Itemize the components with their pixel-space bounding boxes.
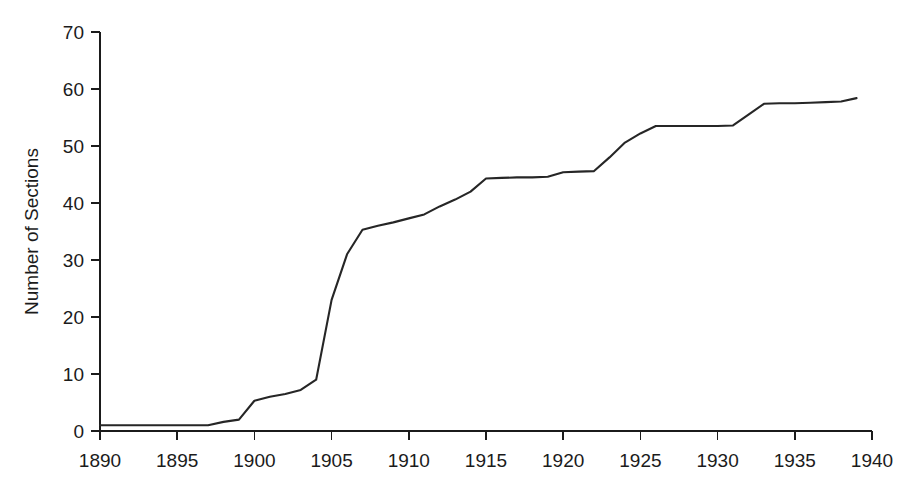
x-tick-label: 1895 — [156, 450, 198, 471]
x-tick-label: 1940 — [851, 450, 893, 471]
x-tick-label: 1925 — [619, 450, 661, 471]
y-tick-label: 30 — [63, 250, 84, 271]
x-tick-label: 1930 — [696, 450, 738, 471]
y-tick-label: 60 — [63, 79, 84, 100]
y-tick-label: 70 — [63, 22, 84, 43]
x-tick-label: 1910 — [388, 450, 430, 471]
y-tick-label: 40 — [63, 193, 84, 214]
line-chart-canvas: 010203040506070 Number of Sections 18901… — [0, 0, 921, 496]
x-tick-label: 1890 — [79, 450, 121, 471]
x-axis-group: 1890189519001905191019151920192519301935… — [79, 431, 893, 471]
y-tick-label: 0 — [73, 421, 84, 442]
x-axis-ticks: 1890189519001905191019151920192519301935… — [79, 431, 893, 471]
x-tick-label: 1915 — [465, 450, 507, 471]
x-tick-label: 1920 — [542, 450, 584, 471]
x-tick-label: 1900 — [233, 450, 275, 471]
series-line — [100, 98, 857, 425]
chart-figure: 010203040506070 Number of Sections 18901… — [0, 0, 921, 496]
y-axis-group: 010203040506070 Number of Sections — [21, 22, 100, 442]
y-tick-label: 20 — [63, 307, 84, 328]
x-tick-label: 1905 — [310, 450, 352, 471]
data-series-group — [100, 98, 857, 425]
y-axis-title: Number of Sections — [21, 148, 42, 315]
x-tick-label: 1935 — [774, 450, 816, 471]
y-axis-ticks: 010203040506070 — [63, 22, 100, 442]
y-tick-label: 10 — [63, 364, 84, 385]
y-tick-label: 50 — [63, 136, 84, 157]
